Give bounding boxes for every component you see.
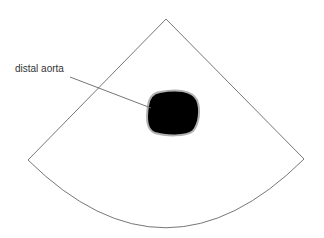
distal-aorta-label: distal aorta — [15, 63, 64, 74]
distal-aorta-shape — [147, 91, 199, 136]
ultrasound-sector-diagram — [0, 0, 324, 238]
